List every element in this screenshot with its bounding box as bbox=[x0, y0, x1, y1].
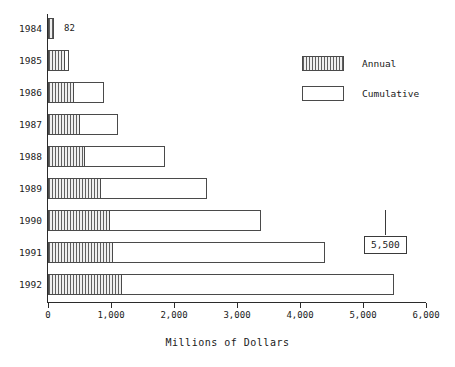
bar-chart: 01,0002,0003,0004,0005,0006,000 19841985… bbox=[0, 0, 455, 367]
x-tick bbox=[111, 303, 112, 308]
callout-leader-line bbox=[385, 210, 386, 235]
data-label-82: 82 bbox=[64, 23, 75, 34]
x-tick-label: 1,000 bbox=[87, 310, 135, 321]
y-axis-category-label: 1986 bbox=[0, 87, 42, 98]
bar-segment-annual bbox=[48, 242, 113, 263]
bar-segment-cumulative bbox=[109, 210, 261, 231]
y-axis-category-label: 1991 bbox=[0, 247, 42, 258]
bar-segment-cumulative bbox=[100, 178, 207, 199]
y-axis-category-label: 1988 bbox=[0, 151, 42, 162]
x-axis-title: Millions of Dollars bbox=[0, 336, 455, 349]
x-tick bbox=[363, 303, 364, 308]
bar-segment-annual bbox=[48, 18, 54, 39]
y-axis-category-label: 1987 bbox=[0, 119, 42, 130]
bar-segment-cumulative bbox=[79, 114, 118, 135]
x-tick-label: 2,000 bbox=[150, 310, 198, 321]
bar-segment-annual bbox=[48, 114, 80, 135]
x-tick bbox=[300, 303, 301, 308]
bar-segment-annual bbox=[48, 146, 85, 167]
callout-value-5500: 5,500 bbox=[364, 236, 407, 254]
y-axis-category-label: 1989 bbox=[0, 183, 42, 194]
y-axis-category-label: 1992 bbox=[0, 279, 42, 290]
legend-label-annual: Annual bbox=[362, 57, 396, 70]
bar-segment-annual bbox=[48, 274, 122, 295]
x-tick-label: 6,000 bbox=[402, 310, 450, 321]
bar-segment-annual bbox=[48, 82, 74, 103]
x-tick bbox=[48, 303, 49, 308]
bar-segment-annual bbox=[48, 210, 110, 231]
legend-label-cumulative: Cumulative bbox=[362, 87, 419, 100]
x-tick-label: 0 bbox=[24, 310, 72, 321]
y-axis-category-label: 1984 bbox=[0, 23, 42, 34]
y-axis-category-label: 1985 bbox=[0, 55, 42, 66]
bar-segment-cumulative bbox=[112, 242, 325, 263]
x-tick-label: 4,000 bbox=[276, 310, 324, 321]
x-tick-label: 5,000 bbox=[339, 310, 387, 321]
white-swatch-icon bbox=[302, 86, 344, 101]
y-axis-category-label: 1990 bbox=[0, 215, 42, 226]
hatched-swatch-icon bbox=[302, 56, 344, 71]
bar-segment-annual bbox=[48, 178, 101, 199]
bar-segment-annual bbox=[48, 50, 65, 71]
bar-segment-cumulative bbox=[121, 274, 395, 295]
x-tick bbox=[237, 303, 238, 308]
x-tick bbox=[426, 303, 427, 308]
x-tick bbox=[174, 303, 175, 308]
bar-segment-cumulative bbox=[73, 82, 104, 103]
x-tick-label: 3,000 bbox=[213, 310, 261, 321]
bar-segment-cumulative bbox=[84, 146, 165, 167]
